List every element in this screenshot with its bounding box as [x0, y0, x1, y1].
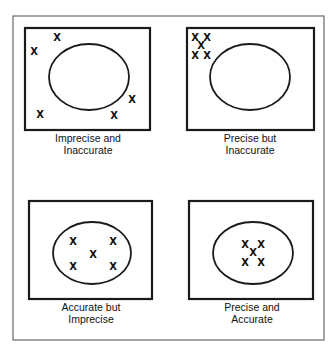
outer-frame	[13, 16, 324, 340]
x-mark-icon: X	[241, 239, 249, 250]
panel-label-line2: Imprecise	[68, 313, 114, 325]
x-mark-icon: X	[53, 32, 61, 43]
x-mark-icon: X	[191, 50, 199, 61]
x-mark-icon: X	[109, 261, 117, 272]
x-mark-icon: X	[128, 94, 136, 105]
panel-label-line2: Accurate	[231, 313, 273, 325]
x-mark-icon: X	[69, 261, 77, 272]
panel-imprecise-inaccurate: XXXXXImprecise andInaccurate	[25, 28, 150, 156]
target-ellipse	[49, 44, 129, 110]
panel-label-line1: Precise and	[224, 301, 280, 313]
panel-label-line1: Imprecise and	[55, 132, 121, 144]
x-mark-icon: X	[109, 236, 117, 247]
x-mark-icon: X	[249, 247, 257, 258]
x-mark-icon: X	[241, 257, 249, 268]
x-mark-icon: X	[203, 50, 211, 61]
panel-accurate-imprecise: XXXXXAccurate butImprecise	[29, 201, 152, 325]
panel-label-line1: Precise but	[224, 132, 277, 144]
x-mark-icon: X	[36, 109, 44, 120]
x-mark-icon: X	[257, 239, 265, 250]
x-mark-icon: X	[110, 110, 118, 121]
x-mark-icon: X	[257, 257, 265, 268]
panel-label-line2: Inaccurate	[63, 144, 112, 156]
x-mark-icon: X	[30, 46, 38, 57]
panel-precise-inaccurate: XXXXXPrecise butInaccurate	[187, 28, 314, 156]
target-ellipse	[210, 44, 290, 110]
x-mark-icon: X	[89, 249, 97, 260]
panel-precise-accurate: XXXXXPrecise andAccurate	[189, 201, 313, 325]
panel-label-line2: Inaccurate	[225, 144, 274, 156]
x-mark-icon: X	[69, 236, 77, 247]
precision-accuracy-diagram: XXXXXImprecise andInaccurateXXXXXPrecise…	[0, 0, 335, 350]
panel-label-line1: Accurate but	[62, 301, 121, 313]
panels: XXXXXImprecise andInaccurateXXXXXPrecise…	[25, 28, 314, 325]
